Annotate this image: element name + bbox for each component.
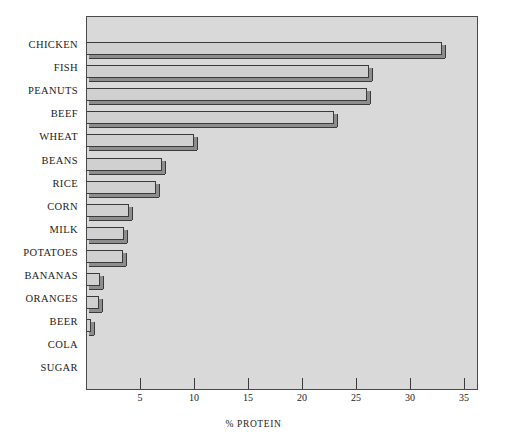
bar [86,273,104,290]
category-label: COLA [48,339,78,350]
bar-shadow-right [91,322,95,335]
bar-face [86,296,99,309]
category-label: FISH [54,62,78,73]
bar-shadow-right [194,137,198,150]
bar-shadow-right [162,161,166,174]
bar [86,204,133,221]
bar-shadow-bottom [89,217,132,221]
category-label: BEEF [51,108,78,119]
bar-shadow-right [369,68,373,81]
bar-face [86,65,369,78]
bar-shadow-right [129,207,133,220]
bar [86,296,103,313]
bar-shadow-right [123,253,127,266]
category-label: MILK [50,224,78,235]
protein-bar-chart: CHICKENFISHPEANUTSBEEFWHEATBEANSRICECORN… [0,0,507,440]
category-axis: CHICKENFISHPEANUTSBEEFWHEATBEANSRICECORN… [0,16,86,390]
bar [86,65,373,82]
x-tick-label: 30 [405,392,415,403]
bar [86,319,95,336]
bar-shadow-right [442,45,446,58]
x-axis-title: % PROTEIN [0,419,507,429]
bar-shadow-right [367,91,371,104]
bar-face [86,42,442,55]
y-axis-line [86,16,87,390]
x-axis-line [86,389,478,390]
category-label: BEER [50,316,78,327]
category-label: WHEAT [39,131,78,142]
bar-shadow-bottom [89,171,165,175]
bar-face [86,88,367,101]
bar-shadow-right [99,299,103,312]
bar [86,42,446,59]
category-label: BEANS [42,155,78,166]
bar-shadow-bottom [89,147,197,151]
category-label: ORANGES [26,293,78,304]
category-label: PEANUTS [28,85,78,96]
x-tick-label: 15 [243,392,253,403]
bar-shadow-right [334,114,338,127]
x-tick [464,378,465,389]
bar-shadow-bottom [89,55,445,59]
category-label: CHICKEN [29,39,78,50]
bar [86,134,198,151]
bar-face [86,158,162,171]
bar-shadow-bottom [89,124,337,128]
category-label: RICE [52,178,78,189]
category-label: POTATOES [23,247,78,258]
bar-shadow-right [100,276,104,289]
bar-face [86,134,194,147]
bar-shadow-bottom [89,240,127,244]
category-label: SUGAR [40,362,78,373]
x-tick [302,378,303,389]
bar [86,250,127,267]
bar-face [86,273,100,286]
category-label: CORN [47,201,78,212]
bar-shadow-bottom [89,194,159,198]
bar-shadow-right [124,230,128,243]
bar [86,111,338,128]
bar-face [86,250,123,263]
x-tick-label: 5 [137,392,142,403]
x-tick-label: 35 [459,392,469,403]
x-tick-label: 20 [297,392,307,403]
bar-face [86,204,129,217]
bar-shadow-bottom [89,101,370,105]
x-tick [410,378,411,389]
x-tick [194,378,195,389]
x-tick [356,378,357,389]
bars-layer [86,16,478,390]
bar-shadow-right [156,184,160,197]
bar-face [86,227,124,240]
category-label: BANANAS [24,270,78,281]
bar [86,158,166,175]
bar-face [86,181,156,194]
x-tick-label: 25 [351,392,361,403]
x-tick [248,378,249,389]
bar [86,227,128,244]
bar [86,88,371,105]
x-tick [140,378,141,389]
x-tick-label: 10 [189,392,199,403]
bar-shadow-bottom [89,263,126,267]
bar [86,181,160,198]
bar-shadow-bottom [89,78,372,82]
bar-face [86,111,334,124]
